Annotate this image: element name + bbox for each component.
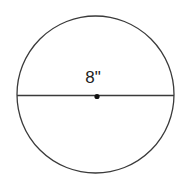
circle-diagram: 8" bbox=[0, 0, 188, 183]
center-point bbox=[94, 94, 99, 99]
diameter-label: 8" bbox=[85, 68, 101, 87]
